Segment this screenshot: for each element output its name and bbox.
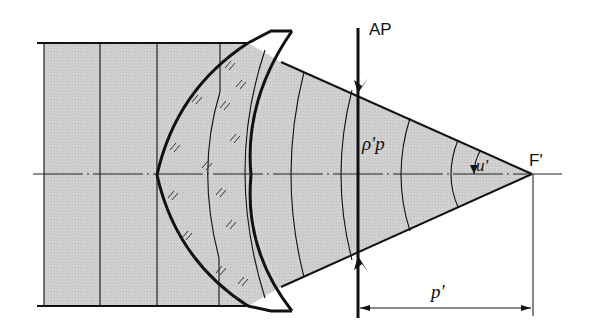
aperture-upper-marker — [354, 78, 368, 93]
lens-bottom-rim — [248, 306, 292, 311]
aperture-plane-label: AP — [369, 20, 392, 39]
aperture-lower-marker — [354, 256, 368, 272]
focal-point-label: F' — [529, 151, 543, 170]
angle-label: u' — [476, 156, 489, 175]
optical-diagram: AP F' ρ'p u' p' — [0, 0, 589, 335]
pupil-radius-label: ρ'p — [361, 133, 385, 154]
distance-label: p' — [429, 281, 446, 302]
